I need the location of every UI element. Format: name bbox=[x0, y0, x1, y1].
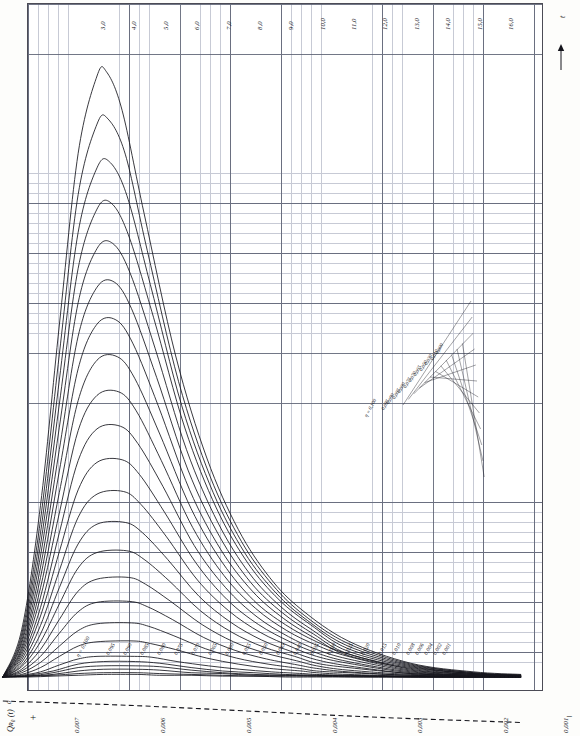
curve-family bbox=[28, 4, 544, 692]
curve-eta-0-055 bbox=[3, 424, 521, 677]
leader-line bbox=[425, 365, 476, 383]
graph-plate: X 7384 t 16,015,014,013,012,011,010,09,0… bbox=[0, 0, 580, 736]
t-tick-8-0: 8,0 bbox=[256, 21, 263, 30]
t-tick-12-0: 12,0 bbox=[381, 18, 388, 30]
q-tick-0-004: 0,004 bbox=[331, 718, 338, 733]
t-tick-16-0: 16,0 bbox=[507, 18, 514, 30]
q-tick-0-003: 0,003 bbox=[416, 718, 423, 733]
leader-line bbox=[441, 366, 480, 413]
curve-eta-0-025 bbox=[3, 601, 521, 677]
t-tick-9-0: 9,0 bbox=[287, 21, 294, 30]
t-tick-11-0: 11,0 bbox=[350, 19, 357, 30]
t-tick-4-0: 4,0 bbox=[130, 21, 137, 30]
t-axis-group: t bbox=[546, 4, 574, 114]
graph-frame bbox=[27, 3, 543, 691]
t-tick-15-0: 15,0 bbox=[476, 18, 483, 30]
curve-eta-0-06 bbox=[3, 390, 521, 677]
curve-eta-0-065 bbox=[3, 355, 521, 677]
curve-eta-0-1 bbox=[3, 67, 521, 677]
curve-eta-0-075 bbox=[3, 280, 521, 677]
up-arrow-icon bbox=[557, 44, 565, 70]
t-tick-10-0: 10,0 bbox=[319, 18, 326, 30]
asymptote-dashed-line bbox=[3, 701, 521, 722]
q-axis-label: Qʀ₀ (t) bbox=[6, 709, 15, 732]
q-axis-plus-sign: + bbox=[30, 711, 36, 723]
leader-line bbox=[457, 349, 483, 461]
leader-line bbox=[430, 377, 477, 381]
leader-line bbox=[462, 343, 484, 477]
t-tick-5-0: 5,0 bbox=[162, 21, 169, 30]
q-tick-0-006: 0,006 bbox=[159, 718, 166, 733]
q-tick-0-007: 0,007 bbox=[73, 718, 80, 733]
q-tick-0-005: 0,005 bbox=[245, 718, 252, 733]
t-tick-6-0: 6,0 bbox=[193, 21, 200, 30]
curve-eta-0-08 bbox=[3, 241, 521, 677]
curve-eta-0-09 bbox=[3, 159, 521, 677]
t-tick-7-0: 7,0 bbox=[225, 21, 232, 30]
t-tick-14-0: 14,0 bbox=[444, 18, 451, 30]
curve-eta-0-095 bbox=[3, 115, 521, 677]
leader-line bbox=[446, 360, 480, 429]
t-tick-3-0: 3,0 bbox=[99, 21, 106, 30]
t-tick-zero: 0 bbox=[5, 701, 12, 704]
q-tick-0-002: 0,002 bbox=[502, 718, 509, 733]
q-axis-minus-sign: − bbox=[566, 710, 572, 722]
leader-line bbox=[435, 371, 478, 397]
t-axis-label: t bbox=[558, 16, 567, 18]
t-tick-13-0: 13,0 bbox=[413, 18, 420, 30]
curve-eta-0-085 bbox=[3, 200, 521, 677]
